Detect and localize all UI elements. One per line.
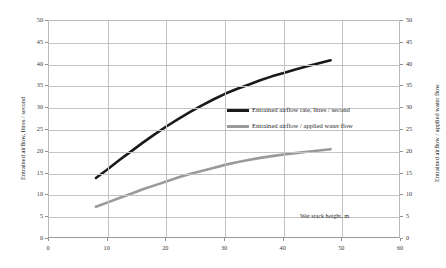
y-axis-right-tick-mark	[400, 173, 403, 174]
gridline-horizontal	[49, 86, 399, 87]
y-axis-right-tick-label: 45	[406, 39, 428, 45]
gridline-horizontal	[49, 174, 399, 175]
y-axis-left-tick-label: 10	[21, 191, 43, 197]
gridline-horizontal	[49, 195, 399, 196]
y-axis-right-tick-mark	[400, 85, 403, 86]
y-axis-right-tick-mark	[400, 42, 403, 43]
gridline-horizontal	[49, 65, 399, 66]
chart-container: 0510152025303540455005101520253035404550…	[0, 0, 446, 268]
gridline-vertical	[166, 21, 167, 237]
y-axis-right-tick-mark	[400, 20, 403, 21]
x-axis-tick-mark	[341, 238, 342, 241]
x-axis-tick-mark	[283, 238, 284, 241]
y-axis-left-tick-mark	[45, 194, 48, 195]
y-axis-right-tick-mark	[400, 151, 403, 152]
x-axis-tick-mark	[48, 238, 49, 241]
y-axis-right-tick-label: 20	[406, 148, 428, 154]
y-axis-right-tick-mark	[400, 194, 403, 195]
y-axis-right-tick-label: 50	[406, 17, 428, 23]
y-axis-right-title: Entrained airflow / applied water flow	[434, 84, 440, 182]
y-axis-right-tick-mark	[400, 216, 403, 217]
series-line-entrained-airflow-ratio	[96, 149, 331, 207]
y-axis-right-tick-label: 30	[406, 104, 428, 110]
y-axis-left-tick-mark	[45, 107, 48, 108]
y-axis-left-tick-mark	[45, 173, 48, 174]
x-axis-tick-label: 60	[388, 245, 412, 251]
y-axis-left-title: Entrained airflow, litres / second	[20, 97, 26, 180]
y-axis-right-tick-label: 10	[406, 191, 428, 197]
x-axis-tick-mark	[400, 238, 401, 241]
y-axis-left-tick-mark	[45, 20, 48, 21]
legend-color-swatch	[227, 125, 249, 128]
y-axis-left-tick-mark	[45, 85, 48, 86]
x-axis-tick-label: 30	[212, 245, 236, 251]
y-axis-left-tick-mark	[45, 64, 48, 65]
y-axis-left-tick-label: 40	[21, 61, 43, 67]
x-axis-tick-mark	[224, 238, 225, 241]
y-axis-left-tick-label: 5	[21, 213, 43, 219]
x-axis-tick-label: 0	[36, 245, 60, 251]
x-axis-tick-label: 20	[153, 245, 177, 251]
y-axis-right-tick-label: 0	[406, 235, 428, 241]
chart-legend: Entrained airflow rate, litres / secondE…	[227, 102, 407, 134]
gridline-horizontal	[49, 152, 399, 153]
y-axis-right-tick-label: 5	[406, 213, 428, 219]
legend-item: Entrained airflow / applied water flow	[227, 118, 407, 134]
x-axis-tick-label: 40	[271, 245, 295, 251]
legend-color-swatch	[227, 109, 249, 112]
y-axis-left-tick-label: 45	[21, 39, 43, 45]
x-axis-tick-mark	[165, 238, 166, 241]
y-axis-left-tick-mark	[45, 151, 48, 152]
legend-label: Entrained airflow rate, litres / second	[252, 107, 350, 114]
y-axis-left-tick-mark	[45, 42, 48, 43]
gridline-vertical	[108, 21, 109, 237]
y-axis-left-tick-label: 35	[21, 82, 43, 88]
x-axis-tick-label: 10	[95, 245, 119, 251]
y-axis-left-tick-mark	[45, 216, 48, 217]
y-axis-left-tick-mark	[45, 129, 48, 130]
y-axis-right-tick-mark	[400, 64, 403, 65]
x-axis-tick-mark	[107, 238, 108, 241]
gridline-vertical	[225, 21, 226, 237]
y-axis-right-tick-label: 25	[406, 126, 428, 132]
legend-label: Entrained airflow / applied water flow	[252, 123, 353, 130]
legend-item: Entrained airflow rate, litres / second	[227, 102, 407, 118]
y-axis-right-tick-label: 40	[406, 61, 428, 67]
y-axis-left-tick-label: 50	[21, 17, 43, 23]
y-axis-left-tick-label: 0	[21, 235, 43, 241]
x-axis-tick-label: 50	[329, 245, 353, 251]
gridline-horizontal	[49, 43, 399, 44]
y-axis-right-tick-label: 35	[406, 82, 428, 88]
y-axis-right-tick-label: 15	[406, 170, 428, 176]
x-axis-title: Wet stack height, m	[300, 213, 349, 219]
